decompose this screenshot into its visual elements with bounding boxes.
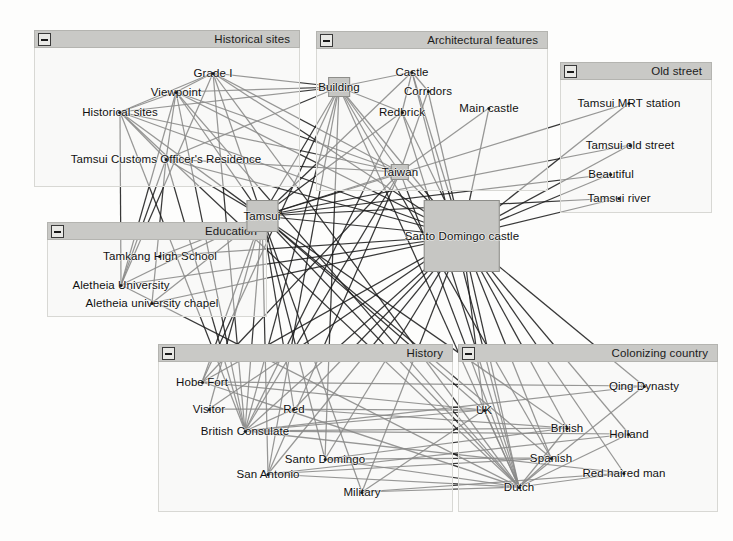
node-label: Castle <box>395 66 428 78</box>
graph-node-british[interactable]: British <box>551 422 584 434</box>
node-label: Holland <box>609 428 649 440</box>
node-label: Red haired man <box>582 467 665 479</box>
node-label: Santo Domingo castle <box>405 230 520 242</box>
graph-node-tamsui[interactable]: Tamsui <box>243 210 280 222</box>
node-label: Taiwan <box>382 166 418 178</box>
node-label: Santo Domingo <box>285 453 366 465</box>
node-layer: Grade IViewpointHistorical sitesTamsui C… <box>0 0 733 541</box>
node-label: Historical sites <box>82 106 158 118</box>
graph-node-castle[interactable]: Castle <box>395 66 428 78</box>
node-label: Tamkang High School <box>103 250 217 262</box>
node-label: Beautiful <box>588 168 634 180</box>
graph-node-tamsui-river[interactable]: Tamsui river <box>587 192 650 204</box>
graph-node-beautiful[interactable]: Beautiful <box>588 168 634 180</box>
node-label: Dutch <box>504 481 535 493</box>
node-label: British Consulate <box>201 425 290 437</box>
graph-node-building[interactable]: Building <box>318 81 360 93</box>
node-label: Viewpoint <box>151 86 202 98</box>
node-label: Aletheia University <box>72 279 169 291</box>
graph-node-tamsui-mrt[interactable]: Tamsui MRT station <box>578 97 681 109</box>
graph-node-aletheia-univ[interactable]: Aletheia University <box>72 279 169 291</box>
node-label: Tamsui old street <box>586 139 675 151</box>
node-label: Building <box>318 81 360 93</box>
node-label: Grade I <box>193 67 232 79</box>
graph-node-aletheia-chapel[interactable]: Aletheia university chapel <box>85 297 218 309</box>
graph-node-tamkang-high[interactable]: Tamkang High School <box>103 250 217 262</box>
graph-node-holland[interactable]: Holland <box>609 428 649 440</box>
node-label: UK <box>476 404 492 416</box>
graph-node-visitor[interactable]: Visitor <box>193 403 225 415</box>
graph-node-hobe-fort[interactable]: Hobe Fort <box>176 376 228 388</box>
graph-node-dutch[interactable]: Dutch <box>504 481 535 493</box>
graph-node-historical-sites-node[interactable]: Historical sites <box>82 106 158 118</box>
graph-node-viewpoint[interactable]: Viewpoint <box>151 86 202 98</box>
node-label: Qing Dynasty <box>609 380 679 392</box>
node-label: Corridors <box>404 85 452 97</box>
node-label: Aletheia university chapel <box>85 297 218 309</box>
graph-node-san-antonio[interactable]: San Antonio <box>236 468 299 480</box>
graph-node-red-haired-man[interactable]: Red haired man <box>582 467 665 479</box>
graph-node-military[interactable]: Military <box>343 486 380 498</box>
node-label: Military <box>343 486 380 498</box>
graph-node-taiwan[interactable]: Taiwan <box>382 166 418 178</box>
graph-node-santo-domingo[interactable]: Santo Domingo <box>285 453 366 465</box>
node-label: Spanish <box>530 452 572 464</box>
node-label: Tamsui river <box>587 192 650 204</box>
node-label: Tamsui MRT station <box>578 97 681 109</box>
graph-node-corridors[interactable]: Corridors <box>404 85 452 97</box>
node-label: Main castle <box>459 102 518 114</box>
node-label: Red <box>283 403 304 415</box>
graph-node-tamsui-old-street[interactable]: Tamsui old street <box>586 139 675 151</box>
graph-node-qing-dynasty[interactable]: Qing Dynasty <box>609 380 679 392</box>
graph-node-santo-domingo-castle[interactable]: Santo Domingo castle <box>405 230 520 242</box>
node-label: Tamsui <box>243 210 280 222</box>
node-label: Visitor <box>193 403 225 415</box>
node-label: British <box>551 422 584 434</box>
graph-node-british-consulate[interactable]: British Consulate <box>201 425 290 437</box>
graph-node-redbrick[interactable]: Redbrick <box>379 106 425 118</box>
node-label: Hobe Fort <box>176 376 228 388</box>
graph-node-uk[interactable]: UK <box>476 404 492 416</box>
graph-canvas[interactable]: Historical sitesArchitectural featuresOl… <box>0 0 733 541</box>
graph-node-red[interactable]: Red <box>283 403 304 415</box>
node-label: San Antonio <box>236 468 299 480</box>
node-label: Tamsui Customs Officer's Residence <box>71 153 262 165</box>
node-label: Redbrick <box>379 106 425 118</box>
graph-node-tamsui-customs[interactable]: Tamsui Customs Officer's Residence <box>71 153 262 165</box>
graph-node-main-castle[interactable]: Main castle <box>459 102 518 114</box>
graph-node-spanish[interactable]: Spanish <box>530 452 572 464</box>
graph-node-grade-i[interactable]: Grade I <box>193 67 232 79</box>
